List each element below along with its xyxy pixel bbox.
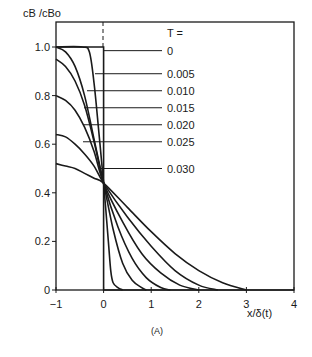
x-tick-label: 0 bbox=[101, 298, 107, 310]
figure-caption: (A) bbox=[151, 326, 163, 336]
y-tick-label: 1.0 bbox=[35, 41, 50, 53]
curve-T-0.015 bbox=[56, 59, 170, 290]
y-axis-ticks: 00.20.40.60.81.0 bbox=[35, 41, 56, 296]
x-axis-label: x/δ(t) bbox=[247, 307, 272, 319]
legend-label: 0.030 bbox=[167, 163, 195, 175]
x-tick-label: 1 bbox=[148, 298, 154, 310]
legend: 00.0050.0100.0150.0200.0250.030 bbox=[83, 45, 195, 175]
legend-label: 0.015 bbox=[167, 102, 195, 114]
y-tick-label: 0.8 bbox=[35, 90, 50, 102]
y-tick-label: 0 bbox=[44, 284, 50, 296]
y-axis-label: cB /cBo bbox=[23, 7, 61, 19]
x-tick-label: 4 bbox=[291, 298, 297, 310]
legend-title: T = bbox=[167, 27, 183, 39]
chart: 00.20.40.60.81.0 −101234 00.0050.0100.01… bbox=[0, 0, 312, 357]
legend-label: 0 bbox=[167, 45, 173, 57]
y-tick-label: 0.2 bbox=[35, 235, 50, 247]
curve-T-0.030 bbox=[56, 164, 246, 290]
legend-label: 0.010 bbox=[167, 85, 195, 97]
legend-label: 0.020 bbox=[167, 119, 195, 131]
legend-label: 0.025 bbox=[167, 136, 195, 148]
x-tick-label: −1 bbox=[50, 298, 63, 310]
legend-label: 0.005 bbox=[167, 68, 195, 80]
y-tick-label: 0.4 bbox=[35, 187, 50, 199]
x-tick-label: 2 bbox=[196, 298, 202, 310]
y-tick-label: 0.6 bbox=[35, 138, 50, 150]
